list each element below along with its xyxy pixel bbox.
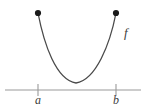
left-endpoint-dot — [35, 10, 41, 16]
graph-svg — [0, 0, 146, 107]
figure-canvas: f a b — [0, 0, 146, 107]
axis-label-b: b — [113, 94, 119, 106]
axis-label-a: a — [35, 94, 41, 106]
right-endpoint-dot — [113, 10, 119, 16]
function-label-f: f — [124, 26, 128, 39]
function-curve — [38, 13, 116, 83]
